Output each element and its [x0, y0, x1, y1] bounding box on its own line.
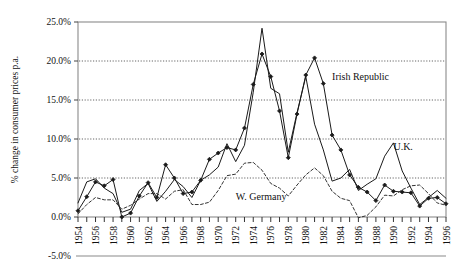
- inflation-line-chart: 25.0%20.0%15.0%10.0%5.0%0.0%-5.0%1954195…: [0, 0, 465, 277]
- x-tick-label: 1986: [354, 226, 364, 245]
- x-tick-label: 1958: [109, 226, 119, 245]
- y-tick-label: 15.0%: [46, 95, 71, 105]
- data-point-marker: [120, 215, 124, 219]
- y-tick-label: 10.0%: [46, 134, 71, 144]
- x-tick-label: 1974: [249, 226, 259, 245]
- x-tick-label: 1964: [161, 226, 171, 245]
- y-axis: 25.0%20.0%15.0%10.0%5.0%0.0%-5.0%: [46, 17, 78, 261]
- y-tick-label: -5.0%: [48, 251, 71, 261]
- y-tick-label: 25.0%: [46, 17, 71, 27]
- x-tick-label: 1962: [144, 226, 154, 245]
- x-tick-label: 1968: [196, 226, 206, 245]
- x-tick-label: 1994: [424, 226, 434, 245]
- data-point-marker: [242, 126, 246, 130]
- data-point-marker: [234, 148, 238, 152]
- series-label-irish-republic: Irish Republic: [332, 71, 389, 82]
- series-label-w-germany: W. Germany: [236, 191, 287, 202]
- y-tick-label: 5.0%: [51, 173, 71, 183]
- chart-container: 25.0%20.0%15.0%10.0%5.0%0.0%-5.0%1954195…: [0, 0, 465, 277]
- x-tick-label: 1982: [319, 226, 329, 245]
- x-tick-label: 1992: [407, 226, 417, 245]
- data-point-marker: [260, 52, 264, 56]
- x-tick-label: 1984: [336, 226, 346, 245]
- data-point-marker: [313, 56, 317, 60]
- x-tick-label: 1976: [266, 226, 276, 245]
- y-axis-title: % change in consumer prices p.a.: [10, 56, 20, 183]
- data-point-marker: [129, 211, 133, 215]
- plot-frame: [78, 22, 446, 217]
- data-point-marker: [286, 156, 290, 160]
- x-tick-label: 1996: [442, 226, 452, 245]
- series-label-u-k: U.K.: [393, 141, 412, 152]
- gridlines: [79, 61, 445, 178]
- x-tick-label: 1956: [91, 226, 101, 245]
- y-tick-label: 20.0%: [46, 56, 71, 66]
- x-tick-label: 1990: [389, 226, 399, 245]
- x-tick-label: 1954: [74, 226, 84, 245]
- x-tick-label: 1978: [284, 226, 294, 245]
- data-point-marker: [321, 82, 325, 86]
- x-tick-label: 1960: [126, 226, 136, 245]
- x-tick-label: 1970: [214, 226, 224, 245]
- x-tick-label: 1988: [372, 226, 382, 245]
- x-tick-label: 1966: [179, 226, 189, 245]
- x-tick-label: 1980: [301, 226, 311, 245]
- x-tick-label: 1972: [231, 226, 241, 245]
- y-tick-label: 0.0%: [51, 212, 71, 222]
- x-axis: 1954195619581960196219641966196819701972…: [74, 217, 452, 245]
- data-point-marker: [278, 109, 282, 113]
